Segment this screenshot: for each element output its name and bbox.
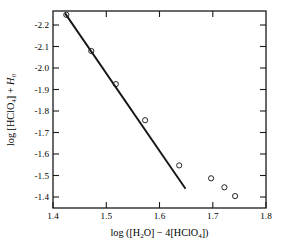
scatter-plot: -2.2 -2.1 -2.0 -1.9 -1.8 -1.7 -1.6 -1.5 … [0, 0, 285, 244]
x-axis-ticks [53, 202, 266, 208]
data-point [143, 118, 148, 123]
x-tick-label: 1.8 [260, 211, 272, 221]
data-point [209, 176, 214, 181]
x-tick-labels: 1.4 1.5 1.6 1.7 1.8 [47, 211, 272, 221]
x-tick-label: 1.5 [101, 211, 113, 221]
data-points [64, 12, 238, 199]
y-axis-ticks-right [260, 25, 266, 197]
y-tick-label: -1.7 [34, 128, 49, 138]
y-axis-label: log [HClO4] + H0 [5, 74, 18, 146]
x-axis-ticks-top [106, 11, 213, 17]
plot-frame [53, 11, 266, 208]
y-tick-label: -2.1 [34, 42, 49, 52]
x-tick-label: 1.6 [154, 211, 166, 221]
y-axis-ticks [53, 25, 59, 197]
x-tick-label: 1.4 [47, 211, 59, 221]
y-tick-label: -2.2 [34, 20, 49, 30]
y-tick-label: -2.0 [34, 63, 49, 73]
y-tick-label: -1.9 [34, 85, 49, 95]
x-axis-label: log ([H2O] − 4[HClO4]) [110, 227, 208, 240]
y-tick-label: -1.8 [34, 106, 49, 116]
y-tick-label: -1.5 [34, 171, 49, 181]
chart-figure: -2.2 -2.1 -2.0 -1.9 -1.8 -1.7 -1.6 -1.5 … [0, 0, 285, 244]
data-point [177, 163, 182, 168]
data-point [233, 194, 238, 199]
regression-line [65, 13, 185, 188]
data-point [222, 185, 227, 190]
y-tick-label: -1.4 [34, 192, 49, 202]
y-tick-labels: -2.2 -2.1 -2.0 -1.9 -1.8 -1.7 -1.6 -1.5 … [34, 20, 49, 202]
x-tick-label: 1.7 [207, 211, 219, 221]
y-tick-label: -1.6 [34, 149, 49, 159]
